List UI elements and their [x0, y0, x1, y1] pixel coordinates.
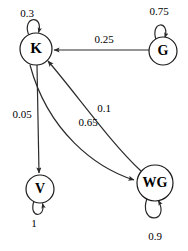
node-k[interactable]: K — [20, 33, 52, 65]
edge-label-wg-self: 0.9 — [148, 230, 162, 242]
edge-label-k-to-wg: 0.65 — [78, 116, 98, 128]
node-v-label: V — [35, 181, 45, 196]
edge-label-wg-to-k: 0.1 — [97, 102, 111, 114]
edge-label-g-self: 0.75 — [149, 5, 169, 17]
state-transition-diagram: K G V WG 0.3 0.75 1 0.9 0.25 0.05 0.1 0.… — [0, 0, 188, 251]
edge-k-self-loop — [27, 20, 39, 35]
diagram-canvas: K G V WG 0.3 0.75 1 0.9 0.25 0.05 0.1 0.… — [0, 0, 188, 251]
node-g[interactable]: G — [149, 37, 177, 65]
edge-label-v-self: 1 — [31, 217, 37, 229]
node-wg-label: WG — [143, 175, 168, 190]
edge-label-k-self: 0.3 — [20, 7, 34, 19]
edge-label-k-to-v: 0.05 — [12, 108, 32, 120]
edge-label-g-to-k: 0.25 — [94, 33, 114, 45]
edge-k-to-v — [37, 65, 39, 173]
node-g-label: G — [158, 43, 169, 58]
node-wg[interactable]: WG — [137, 165, 173, 201]
node-v[interactable]: V — [26, 175, 54, 203]
node-k-label: K — [30, 40, 42, 56]
